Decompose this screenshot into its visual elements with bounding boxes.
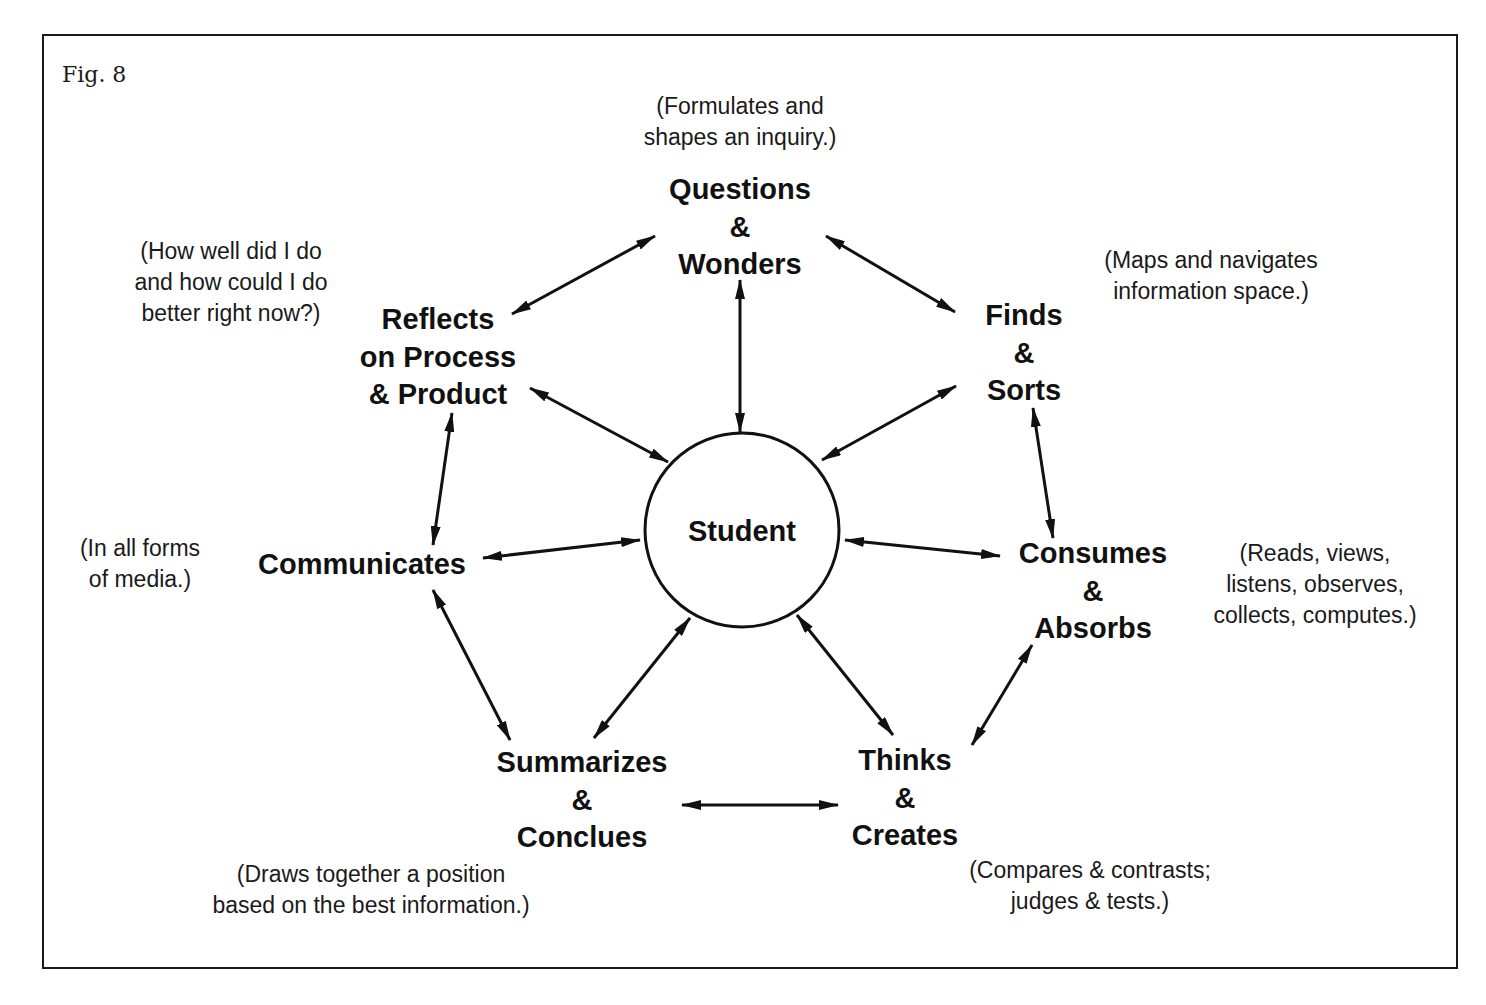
note-line: judges & tests.): [969, 886, 1211, 917]
note-line: collects, computes.): [1213, 600, 1416, 631]
node-line: Summarizes: [497, 744, 668, 782]
arrow-thinks-consumes: [972, 645, 1032, 745]
note-line: (Draws together a position: [212, 859, 529, 890]
note-line: (Reads, views,: [1213, 538, 1416, 569]
arrow-student-thinks: [797, 615, 893, 735]
note-consumes: (Reads, views, listens, observes, collec…: [1213, 538, 1416, 631]
node-line: &: [852, 780, 958, 818]
note-thinks: (Compares & contrasts; judges & tests.): [969, 855, 1211, 917]
node-reflects: Reflects on Process & Product: [360, 301, 516, 414]
note-questions: (Formulates and shapes an inquiry.): [644, 91, 837, 153]
node-line: &: [497, 782, 668, 820]
node-line: Consumes: [1019, 535, 1167, 573]
note-line: (Compares & contrasts;: [969, 855, 1211, 886]
node-line: Creates: [852, 817, 958, 855]
node-line: &: [1019, 573, 1167, 611]
arrow-questions-finds: [826, 236, 955, 312]
arrow-reflects-communicates: [433, 413, 452, 545]
arrow-communicates-student: [483, 540, 640, 558]
node-thinks: Thinks & Creates: [852, 742, 958, 855]
note-line: shapes an inquiry.): [644, 122, 837, 153]
arrow-reflects-student: [530, 388, 668, 462]
note-summarizes: (Draws together a position based on the …: [212, 859, 529, 921]
node-communicates: Communicates: [258, 546, 466, 584]
node-line: Conclues: [497, 819, 668, 857]
note-finds: (Maps and navigates information space.): [1104, 245, 1318, 307]
node-line: Sorts: [985, 372, 1062, 410]
node-line: Finds: [985, 297, 1062, 335]
note-line: and how could I do: [134, 267, 327, 298]
node-questions: Questions & Wonders: [669, 171, 811, 284]
note-reflects: (How well did I do and how could I do be…: [134, 236, 327, 329]
node-line: &: [669, 209, 811, 247]
node-line: Absorbs: [1019, 610, 1167, 648]
node-line: Thinks: [852, 742, 958, 780]
node-summarizes: Summarizes & Conclues: [497, 744, 668, 857]
note-line: listens, observes,: [1213, 569, 1416, 600]
arrow-communicates-summarizes: [433, 590, 510, 740]
note-line: (In all forms: [80, 533, 200, 564]
node-line: & Product: [360, 376, 516, 414]
note-line: based on the best information.): [212, 890, 529, 921]
note-line: information space.): [1104, 276, 1318, 307]
arrow-finds-student: [822, 386, 956, 460]
node-line: on Process: [360, 339, 516, 377]
note-line: (Formulates and: [644, 91, 837, 122]
arrow-reflects-questions: [512, 236, 655, 314]
note-line: better right now?): [134, 298, 327, 329]
node-consumes: Consumes & Absorbs: [1019, 535, 1167, 648]
note-communicates: (In all forms of media.): [80, 533, 200, 595]
node-line: Communicates: [258, 546, 466, 584]
student-label: Student: [688, 514, 796, 548]
note-line: (Maps and navigates: [1104, 245, 1318, 276]
node-line: Reflects: [360, 301, 516, 339]
note-line: (How well did I do: [134, 236, 327, 267]
arrow-summarizes-student: [594, 618, 690, 738]
node-line: &: [985, 335, 1062, 373]
node-line: Questions: [669, 171, 811, 209]
arrow-student-consumes: [845, 540, 1000, 556]
note-line: of media.): [80, 564, 200, 595]
arrow-finds-consumes: [1033, 408, 1053, 538]
node-line: Wonders: [669, 246, 811, 284]
node-finds: Finds & Sorts: [985, 297, 1062, 410]
